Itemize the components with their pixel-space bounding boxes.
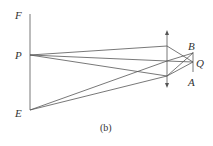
rays-from-e (30, 53, 193, 110)
optics-diagram: F P E B Q A (b) (0, 0, 213, 146)
lens-top-arrow-icon (165, 30, 169, 35)
converging-lens (165, 30, 169, 88)
label-b: B (188, 40, 195, 52)
label-f: F (14, 9, 22, 21)
figure-caption: (b) (100, 122, 112, 134)
lens-bottom-arrow-icon (165, 83, 169, 88)
rays-from-p (30, 46, 193, 76)
label-p: P (14, 49, 22, 61)
label-e: E (14, 107, 22, 119)
label-q: Q (196, 57, 204, 69)
label-a: A (187, 76, 195, 88)
